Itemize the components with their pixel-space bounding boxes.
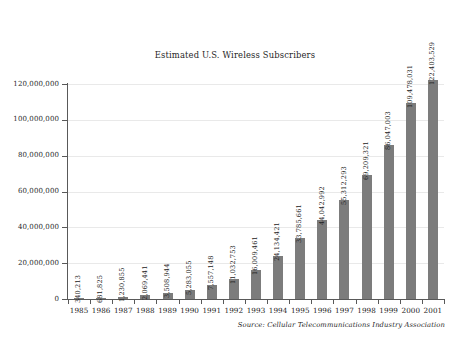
x-tick-mark [245, 300, 246, 304]
bar-value-label: 122,403,529 [428, 42, 436, 85]
bar-value-label: 109,478,031 [406, 65, 414, 108]
bar-value-label: 86,047,003 [384, 111, 392, 150]
bar-value-label: 2,069,441 [141, 266, 149, 300]
x-tick-mark [444, 300, 445, 304]
y-tick-mark [62, 299, 67, 300]
y-tick-label: 60,000,000 [18, 187, 59, 195]
bar-value-label: 5,283,055 [185, 260, 193, 294]
y-tick-label: 20,000,000 [18, 259, 59, 267]
y-tick-label: 40,000,000 [18, 223, 59, 231]
bar[interactable] [384, 145, 394, 299]
x-tick-label: 1989 [156, 306, 178, 315]
bar[interactable] [339, 200, 349, 299]
bar[interactable] [317, 220, 327, 299]
x-tick-label: 1999 [378, 306, 400, 315]
y-tick-mark [62, 84, 67, 85]
source-note: Source: Cellular Telecommunications Indu… [238, 321, 445, 329]
x-tick-mark [267, 300, 268, 304]
x-tick-label: 1993 [245, 306, 267, 315]
x-tick-label: 1985 [68, 306, 90, 315]
x-tick-mark [201, 300, 202, 304]
x-tick-mark [68, 300, 69, 304]
x-tick-label: 1996 [311, 306, 333, 315]
x-tick-label: 1994 [267, 306, 289, 315]
x-tick-label: 1991 [201, 306, 223, 315]
x-tick-label: 1990 [179, 306, 201, 315]
y-tick-mark [62, 156, 67, 157]
y-tick-mark [62, 227, 67, 228]
x-tick-mark [311, 300, 312, 304]
bar[interactable] [428, 80, 438, 299]
bar-value-label: 16,009,461 [251, 237, 259, 276]
chart-figure: Estimated U.S. Wireless Subscribers 020,… [0, 0, 470, 342]
x-tick-label: 1992 [223, 306, 245, 315]
bar-value-label: 1,230,855 [118, 267, 126, 301]
x-tick-label: 1987 [112, 306, 134, 315]
bar-value-label: 44,042,992 [318, 186, 326, 225]
x-tick-mark [400, 300, 401, 304]
bar-value-label: 24,134,421 [273, 222, 281, 261]
bar[interactable] [406, 103, 416, 299]
chart-title: Estimated U.S. Wireless Subscribers [0, 50, 470, 60]
bar-value-label: 681,825 [96, 275, 104, 303]
bar[interactable] [362, 175, 372, 299]
x-tick-mark [112, 300, 113, 304]
x-tick-label: 1995 [289, 306, 311, 315]
x-tick-mark [134, 300, 135, 304]
x-tick-mark [422, 300, 423, 304]
y-tick-label: 100,000,000 [13, 115, 59, 123]
bar-value-label: 340,213 [74, 275, 82, 303]
x-tick-mark [378, 300, 379, 304]
x-tick-label: 1997 [333, 306, 355, 315]
y-tick-label: 80,000,000 [18, 151, 59, 159]
y-tick-mark [62, 192, 67, 193]
x-tick-mark [156, 300, 157, 304]
bar-value-label: 55,312,293 [340, 166, 348, 205]
bar-value-label: 7,557,148 [207, 256, 215, 290]
x-tick-label: 1998 [356, 306, 378, 315]
bar[interactable] [273, 256, 283, 299]
y-tick-mark [62, 263, 67, 264]
bar-value-label: 69,209,321 [362, 141, 370, 180]
bar-value-label: 11,032,753 [229, 245, 237, 284]
x-tick-mark [179, 300, 180, 304]
x-tick-mark [356, 300, 357, 304]
bar-value-label: 3,508,944 [163, 263, 171, 297]
y-tick-mark [62, 120, 67, 121]
bar-value-label: 33,785,661 [295, 205, 303, 244]
x-tick-mark [223, 300, 224, 304]
x-tick-label: 2000 [400, 306, 422, 315]
x-tick-mark [90, 300, 91, 304]
x-tick-label: 1988 [134, 306, 156, 315]
y-tick-label: 120,000,000 [13, 80, 59, 88]
x-tick-mark [333, 300, 334, 304]
x-tick-label: 1986 [90, 306, 112, 315]
x-tick-mark [289, 300, 290, 304]
bar[interactable] [295, 238, 305, 299]
y-tick-label: 0 [54, 295, 59, 303]
x-tick-label: 2001 [422, 306, 444, 315]
